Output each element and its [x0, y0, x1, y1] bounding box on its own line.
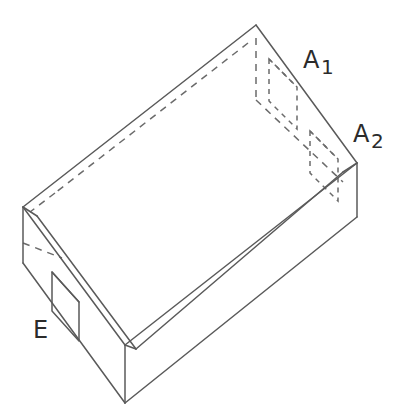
- label-a1-base: A: [303, 46, 320, 74]
- label-e-base: E: [33, 316, 48, 344]
- label-a2-subscript: 2: [371, 129, 384, 153]
- label-e: E: [33, 316, 48, 344]
- label-a1: A 1: [303, 46, 334, 79]
- label-a1-subscript: 1: [321, 55, 334, 79]
- label-a2-base: A: [353, 120, 370, 148]
- isometric-box-figure: A 1 A 2 E: [0, 0, 408, 415]
- label-a2: A 2: [353, 120, 384, 153]
- diagram-canvas: A 1 A 2 E: [0, 0, 408, 415]
- box-body-fill: [23, 25, 357, 403]
